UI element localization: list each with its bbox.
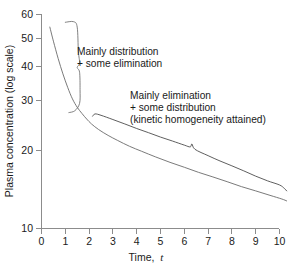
y-tick-label: 10	[21, 222, 33, 234]
x-tick-label: 0	[39, 235, 45, 247]
y-tick-label: 30	[21, 94, 33, 106]
y-tick-label: 40	[21, 60, 33, 72]
x-axis-title-text: Time,	[129, 251, 155, 263]
y-tick-label: 50	[21, 32, 33, 44]
elimination-annotation-line-1: Mainly elimination	[130, 90, 211, 101]
x-tick-label: 6	[181, 235, 187, 247]
distribution-annotation-line-2: + some elimination	[77, 58, 162, 69]
x-tick-label: 2	[86, 235, 92, 247]
x-tick-label: 3	[110, 235, 116, 247]
elimination-annotation-line-2: + some distribution	[130, 102, 216, 113]
y-tick-label: 60	[21, 8, 33, 20]
chart-figure: 60 50 40 30 20 10 0 1 2 3 4	[0, 0, 292, 265]
x-tick-label: 8	[229, 235, 235, 247]
x-tick-label: 1	[62, 235, 68, 247]
x-tick-label: 4	[134, 235, 140, 247]
x-tick-label: 10	[274, 235, 286, 247]
distribution-annotation-line-1: Mainly distribution	[77, 46, 159, 57]
x-tick-label: 9	[253, 235, 259, 247]
x-tick-label: 5	[158, 235, 164, 247]
elimination-annotation-line-3: (kinetic homogeneity attained)	[130, 114, 266, 125]
x-tick-label: 7	[205, 235, 211, 247]
plasma-concentration-log-plot: 60 50 40 30 20 10 0 1 2 3 4	[0, 0, 292, 265]
plot-background	[0, 0, 292, 265]
distribution-annotation: Mainly distribution + some elimination	[77, 46, 162, 69]
y-tick-label: 20	[21, 144, 33, 156]
y-axis-title: Plasma concentration (log scale)	[3, 45, 15, 197]
